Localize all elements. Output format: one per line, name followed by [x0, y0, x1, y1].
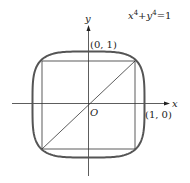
y-axis-label: y [84, 13, 91, 24]
x-axis-arrow-icon [164, 102, 170, 106]
superellipse-diagram: y x O (0, 1) (1, 0) x4+y4=1 [0, 0, 190, 183]
point-label-1-0: (1, 0) [145, 109, 172, 120]
point-label-0-1: (0, 1) [90, 39, 117, 50]
y-axis-arrow-icon [87, 25, 91, 31]
equation-label: x4+y4=1 [128, 9, 171, 21]
x-axis-label: x [172, 98, 178, 109]
origin-label: O [90, 107, 98, 118]
